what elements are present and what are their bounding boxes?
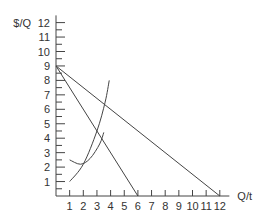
- y-tick-label: 8: [44, 74, 50, 86]
- y-tick-label: 5: [44, 118, 50, 130]
- y-tick-label: 6: [44, 103, 50, 115]
- y-tick-label: 2: [44, 161, 50, 173]
- y-axis-label: $/Q: [13, 17, 31, 29]
- x-tick-label: 7: [148, 200, 154, 212]
- x-tick-label: 9: [176, 200, 182, 212]
- x-tick-label: 8: [162, 200, 168, 212]
- y-tick-label: 4: [44, 132, 50, 144]
- x-tick-label: 11: [200, 200, 211, 212]
- x-tick-label: 3: [94, 200, 100, 212]
- chart: 123456789101112123456789101112$/QQ/t: [0, 0, 268, 217]
- x-tick-label: 1: [67, 200, 73, 212]
- y-tick-label: 12: [38, 17, 50, 29]
- y-tick-label: 3: [44, 147, 50, 159]
- y-tick-label: 11: [39, 31, 50, 43]
- y-tick-label: 10: [38, 46, 50, 58]
- x-tick-label: 5: [121, 200, 127, 212]
- x-tick-label: 4: [108, 200, 114, 212]
- x-tick-label: 10: [186, 200, 198, 212]
- marginal-cost-curve: [70, 80, 110, 181]
- x-tick-label: 6: [135, 200, 141, 212]
- y-tick-label: 9: [44, 60, 50, 72]
- average-cost-curve: [70, 132, 104, 164]
- demand-line: [56, 66, 220, 196]
- x-axis-label: Q/t: [237, 190, 252, 202]
- y-tick-label: 7: [44, 89, 50, 101]
- x-tick-label: 2: [80, 200, 86, 212]
- y-tick-label: 1: [44, 176, 50, 188]
- x-tick-label: 12: [214, 200, 226, 212]
